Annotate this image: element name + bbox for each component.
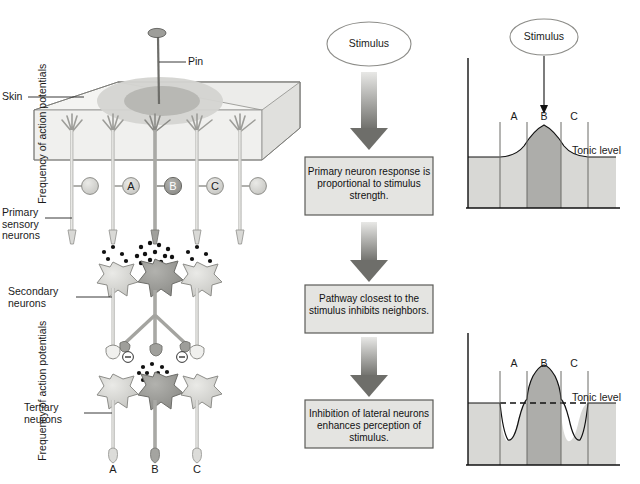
graph1-tonic-level-label: Tonic level <box>572 145 621 157</box>
secondary-neurons <box>97 259 222 362</box>
flow-box-1-text: Primary neuron response is proportional … <box>307 166 431 202</box>
receptor-label-a: A <box>124 181 138 193</box>
tertiary-soma-c <box>181 374 222 409</box>
receptor-label-b: B <box>166 181 180 193</box>
flow-box-2-text: Pathway closest to the stimulus inhibits… <box>307 293 431 317</box>
graph2-band-label-a: A <box>507 358 521 370</box>
flow-arrows <box>350 72 388 397</box>
flow-box-3-text: Inhibition of lateral neurons enhances p… <box>307 408 431 444</box>
output-label-c: C <box>190 464 204 476</box>
secondary-soma-a <box>97 262 138 297</box>
output-label-b: B <box>148 464 162 476</box>
tertiary-soma-a <box>97 374 138 409</box>
secondary-soma-b <box>138 259 183 297</box>
secondary-neurons-label: Secondary neurons <box>8 286 58 309</box>
output-label-a: A <box>106 464 120 476</box>
graph2-tonic-level-label: Tonic level <box>572 392 621 404</box>
skin-label: Skin <box>2 91 22 103</box>
graph1-band-label-b: B <box>537 111 551 123</box>
graph2-y-axis-label: Frequency of action potentials <box>37 316 49 466</box>
secondary-soma-c <box>181 262 222 297</box>
tertiary-neurons <box>97 372 222 463</box>
skin-block <box>34 77 300 160</box>
primary-sensory-neurons-label: Primary sensory neurons <box>2 207 40 242</box>
pin-label: Pin <box>188 56 203 68</box>
stimulus-oval-graph-label: Stimulus <box>514 31 574 43</box>
stimulus-oval-flow-label: Stimulus <box>339 38 399 50</box>
receptor-label-c: C <box>208 181 222 193</box>
graph2-band-label-b: B <box>537 358 551 370</box>
tertiary-soma-b <box>138 372 183 410</box>
graph1-band-label-a: A <box>507 111 521 123</box>
graph1-band-label-c: C <box>567 111 581 123</box>
graph2-band-label-c: C <box>567 358 581 370</box>
graph1-y-axis-label: Frequency of action potentials <box>37 59 49 209</box>
figure-root: Pin Skin Primary sensory neurons Seconda… <box>0 0 640 484</box>
